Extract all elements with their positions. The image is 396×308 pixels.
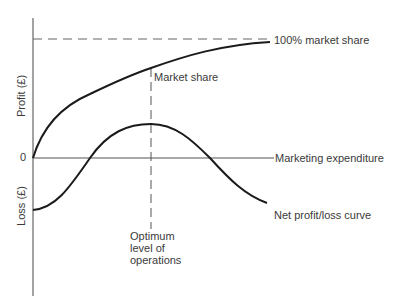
net-curve-label: Net profit/loss curve <box>274 209 371 222</box>
zero-label: 0 <box>20 151 26 164</box>
x-axis-label: Marketing expenditure <box>275 152 384 165</box>
market-share-label: Market share <box>154 71 218 84</box>
full-market-share-label: 100% market share <box>274 34 369 47</box>
y-axis-label-profit: Profit (£) <box>15 71 27 121</box>
net-profit-loss-curve <box>33 124 267 210</box>
optimum-label: Optimum level of operations <box>130 230 181 266</box>
optimum-label-line-3: operations <box>130 254 181 266</box>
optimum-label-line-2: level of <box>130 242 181 254</box>
optimum-label-line-1: Optimum <box>130 230 181 242</box>
y-axis-label-loss: Loss (£) <box>15 183 27 229</box>
